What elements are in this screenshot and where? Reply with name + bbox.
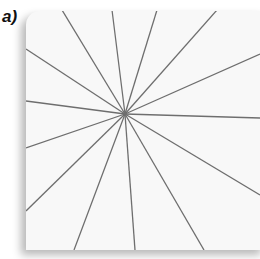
center-point bbox=[123, 112, 126, 115]
ray-line bbox=[112, 10, 125, 114]
ray-line bbox=[125, 114, 204, 250]
ray-line bbox=[125, 114, 260, 118]
ray-line bbox=[125, 54, 260, 114]
ray-line bbox=[26, 114, 125, 211]
ray-line bbox=[26, 49, 125, 114]
rays bbox=[26, 10, 260, 250]
ray-line bbox=[26, 114, 125, 148]
ray-line bbox=[62, 10, 125, 114]
ray-line bbox=[125, 114, 260, 195]
ray-line bbox=[74, 114, 125, 250]
ray-line bbox=[125, 10, 157, 114]
ray-line bbox=[125, 10, 217, 114]
ray-line bbox=[26, 101, 125, 114]
ray-line bbox=[125, 114, 135, 250]
radial-lines-diagram bbox=[0, 0, 260, 259]
